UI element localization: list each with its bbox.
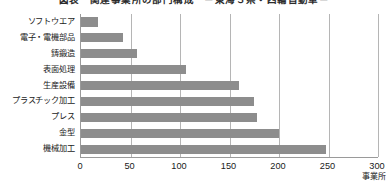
bar xyxy=(81,17,98,26)
bar-row xyxy=(81,62,378,78)
category-label: 機械加工 xyxy=(43,144,75,154)
category-label: 鋳鍛造 xyxy=(51,49,75,59)
x-axis-unit-label: 事業所 xyxy=(362,172,386,181)
bar-row xyxy=(81,46,378,62)
bar xyxy=(81,113,257,122)
bar xyxy=(81,49,137,58)
x-tick-label: 100 xyxy=(159,161,199,172)
category-label: ソフトウエア xyxy=(28,17,75,27)
bar-row xyxy=(81,78,378,94)
x-tick-label: 50 xyxy=(110,161,150,172)
x-tick-label: 200 xyxy=(258,161,298,172)
category-label: プレス xyxy=(51,112,75,122)
plot-area xyxy=(80,14,378,158)
bar-row xyxy=(81,30,378,46)
gridline xyxy=(378,14,379,157)
category-label: 生産設備 xyxy=(43,81,75,91)
x-tick-label: 150 xyxy=(209,161,249,172)
bar-row xyxy=(81,141,378,157)
bar xyxy=(81,33,123,42)
chart-title: 図表 関連事業所の部門構成 －東海３県・四輪自動車－ xyxy=(0,0,388,6)
x-tick-label: 0 xyxy=(60,161,100,172)
bar xyxy=(81,97,254,106)
category-label: 金型 xyxy=(59,128,75,138)
bar xyxy=(81,81,239,90)
bar-row xyxy=(81,125,378,141)
bar xyxy=(81,129,279,138)
category-label: 表面処理 xyxy=(43,65,75,75)
bar-row xyxy=(81,109,378,125)
category-label: 電子・電機部品 xyxy=(20,33,75,43)
bar xyxy=(81,65,186,74)
chart-figure: 図表 関連事業所の部門構成 －東海３県・四輪自動車－ ソフトウエア電子・電機部品… xyxy=(0,0,388,183)
bar xyxy=(81,145,326,154)
category-label: プラスチック加工 xyxy=(12,96,75,106)
bar-row xyxy=(81,93,378,109)
bar-row xyxy=(81,14,378,30)
x-tick-label: 300 xyxy=(357,161,388,172)
x-tick-label: 250 xyxy=(308,161,348,172)
